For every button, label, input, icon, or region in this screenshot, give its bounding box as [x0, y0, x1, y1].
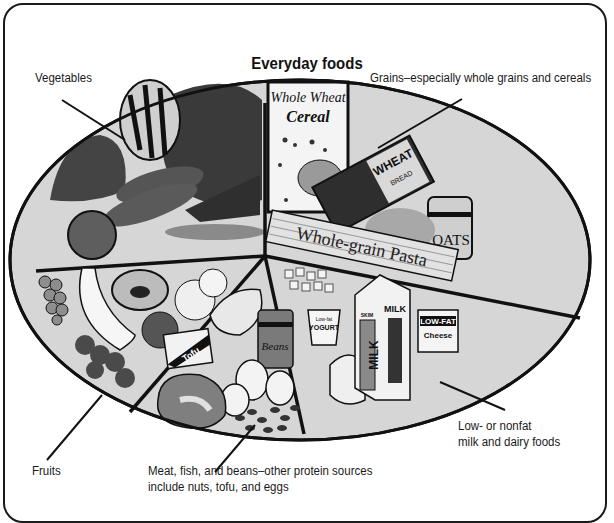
tomato-icon [68, 211, 116, 259]
beans-label: Beans [262, 340, 289, 352]
milk-side-label: MILK [367, 340, 381, 370]
cheese-sublabel: Cheese [424, 331, 453, 340]
yogurt-sublabel: Low-fat [316, 316, 333, 322]
label-dairy-line2: milk and dairy foods [458, 434, 560, 451]
label-fruits: Fruits [32, 463, 61, 480]
milk-skim-label: SKIM [361, 312, 374, 318]
milk-carton: SKIM MILK MILK [355, 275, 410, 400]
tofu-package: Tofu [163, 329, 212, 369]
orange-slice-icon [199, 269, 227, 297]
beans-can [258, 310, 293, 368]
label-vegetables: Vegetables [35, 70, 92, 87]
carrots-icon [165, 224, 265, 240]
label-protein-line2: include nuts, tofu, and eggs [148, 479, 289, 496]
yogurt-label: YOGURT [309, 324, 340, 331]
label-protein-line1: Meat, fish, and beans–other protein sour… [148, 463, 372, 480]
fruits-leader [47, 395, 102, 460]
label-dairy-line1: Low- or nonfat [458, 418, 532, 435]
cheese-label: LOW-FAT [420, 317, 456, 326]
broccoli-icon [50, 135, 126, 201]
milk-label: MILK [384, 304, 406, 314]
cereal-box-label: Whole Wheat [270, 90, 346, 105]
label-grains: Grains–especially whole grains and cerea… [370, 70, 591, 87]
cereal-box-sublabel: Cereal [286, 108, 330, 125]
